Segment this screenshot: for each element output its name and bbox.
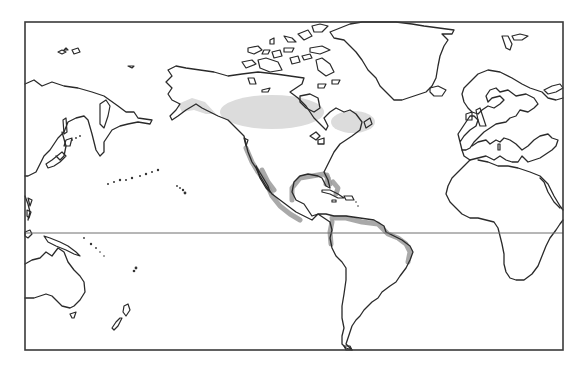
sardinia-corsica: [498, 144, 500, 150]
sakhalin-island: [63, 118, 67, 134]
hawaii-islands: [176, 185, 186, 194]
lesser-antilles: [355, 201, 359, 207]
new-zealand-north: [123, 304, 130, 316]
map-canvas: [0, 0, 585, 373]
svalbard-island: [502, 34, 528, 50]
eastern-canada-range: [331, 111, 375, 133]
tasmania-island: [70, 312, 76, 318]
red-sea-coast: [540, 178, 560, 208]
japan-honshu: [46, 152, 66, 168]
iberia-med-coast: [462, 134, 558, 162]
new-siberian-islands: [58, 48, 80, 54]
kamchatka-island: [100, 100, 110, 128]
central-canada-range: [220, 95, 324, 129]
arctic-archipelago: [242, 24, 340, 92]
europe-coastline: [458, 70, 563, 150]
pacific-island-dots: [83, 237, 137, 272]
new-zealand-south: [112, 318, 122, 330]
new-guinea-island: [44, 236, 80, 256]
indonesia-fragment: [25, 230, 32, 238]
hispaniola-island: [344, 196, 354, 200]
wrangel-island: [128, 66, 134, 68]
australia-coastline: [25, 248, 85, 308]
great-lakes: [310, 132, 324, 144]
iceland-island: [430, 86, 446, 96]
aleutian-islands: [107, 169, 159, 185]
northern-south-america-range: [332, 218, 410, 262]
novaya-zemlya: [544, 84, 563, 94]
jamaica-island: [332, 200, 336, 202]
africa-coastline: [446, 160, 563, 280]
cuba-island: [322, 190, 344, 198]
africa-north-coast: [478, 160, 563, 210]
asia-coastline: [25, 80, 152, 176]
greenland-coastline: [330, 22, 454, 100]
world-map: [0, 0, 585, 373]
